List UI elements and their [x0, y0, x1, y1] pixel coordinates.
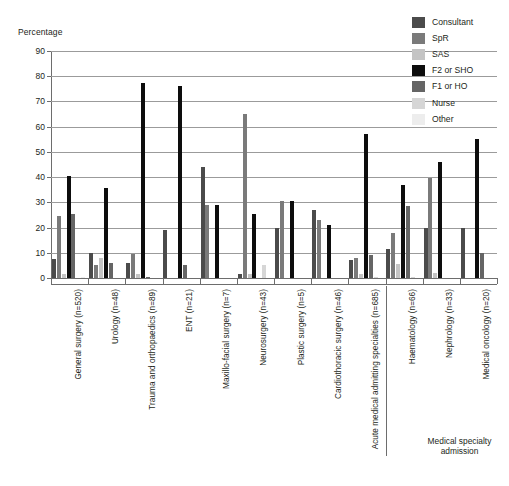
bar	[146, 277, 150, 278]
bar	[238, 274, 242, 278]
bar	[104, 188, 108, 278]
legend-swatch-icon	[412, 65, 425, 76]
bar	[99, 258, 103, 278]
x-tick-mark	[497, 278, 498, 284]
x-axis-category-label: ENT (n=21)	[185, 289, 194, 332]
legend-label: SpR	[432, 34, 449, 43]
bar	[81, 277, 85, 278]
bar	[480, 253, 484, 278]
x-tick-mark	[311, 278, 312, 284]
legend-swatch-icon	[412, 81, 425, 92]
y-tick-label-90: 90	[23, 47, 45, 56]
bar	[252, 214, 256, 278]
legend-item: F1 or HO	[412, 79, 473, 95]
bar-group	[125, 51, 162, 278]
x-axis-category-label: Maxillo-facial surgery (n=7)	[222, 289, 231, 389]
x-tick-mark	[460, 278, 461, 284]
x-axis-line	[51, 284, 497, 285]
y-axis-title: Percentage	[18, 27, 62, 37]
bar	[89, 253, 93, 278]
legend-swatch-icon	[412, 17, 425, 28]
x-tick-mark	[163, 278, 164, 284]
bar	[280, 201, 284, 278]
x-axis-category-label: General surgery (n=520)	[74, 289, 83, 380]
bar-group	[88, 51, 125, 278]
bar	[262, 265, 266, 278]
bar	[433, 273, 437, 278]
y-tick-label-70: 70	[23, 97, 45, 106]
y-tick-label-50: 50	[23, 148, 45, 157]
legend-swatch-icon	[412, 98, 425, 109]
legend-label: Other	[432, 115, 454, 124]
y-tick-label-10: 10	[23, 249, 45, 258]
bar	[369, 255, 373, 278]
bar	[131, 254, 135, 278]
legend-label: F1 or HO	[432, 82, 467, 91]
bar	[248, 274, 252, 278]
bar-group	[163, 51, 200, 278]
bar	[205, 205, 209, 278]
x-tick-mark	[200, 278, 201, 284]
x-axis-category-label: Neurosurgery (n=43)	[259, 289, 268, 366]
bar	[243, 114, 247, 278]
y-tick-label-80: 80	[23, 72, 45, 81]
legend-swatch-icon	[412, 33, 425, 44]
x-axis-category-label: Cardiothoracic surgery (n=46)	[334, 289, 343, 399]
bar	[215, 205, 219, 278]
x-axis-category-label: Urology (n=48)	[111, 289, 120, 344]
legend-item: F2 or SHO	[412, 63, 473, 79]
bar	[411, 277, 415, 278]
x-tick-mark	[51, 278, 52, 284]
legend-item: Other	[412, 111, 473, 127]
bar	[386, 249, 390, 278]
x-axis-category-label: Nephrology (n=33)	[445, 289, 454, 358]
medical-specialty-separator	[386, 286, 387, 456]
legend-label: SAS	[432, 50, 449, 59]
bar	[359, 274, 363, 278]
bar	[396, 264, 400, 278]
x-tick-mark	[423, 278, 424, 284]
bar	[312, 210, 316, 278]
bar	[183, 265, 187, 278]
x-tick-mark	[237, 278, 238, 284]
bar	[67, 176, 71, 278]
bar	[406, 206, 410, 278]
bar	[163, 230, 167, 278]
x-axis-category-label: Trauma and orthopaedics (n=89)	[148, 289, 157, 410]
bar-group	[51, 51, 88, 278]
x-tick-mark	[386, 278, 387, 284]
x-tick-mark	[274, 278, 275, 284]
y-tick-label-20: 20	[23, 224, 45, 233]
x-tick-mark	[348, 278, 349, 284]
y-tick-label-60: 60	[23, 123, 45, 132]
legend-item: SpR	[412, 30, 473, 46]
x-axis-category-label: Plastic surgery (n=5)	[297, 289, 306, 365]
bar	[475, 139, 479, 278]
bar	[438, 162, 442, 278]
chart-figure: Percentage 0102030405060708090 General s…	[0, 0, 509, 486]
bar	[364, 134, 368, 278]
x-axis-category-label: Haematology (n=66)	[408, 289, 417, 364]
legend-label: Consultant	[432, 18, 473, 27]
bar	[141, 83, 145, 278]
legend: ConsultantSpRSASF2 or SHOF1 or HONurseOt…	[412, 14, 473, 127]
legend-swatch-icon	[412, 114, 425, 125]
bar	[62, 274, 66, 278]
legend-swatch-icon	[412, 49, 425, 60]
bar	[428, 178, 432, 278]
bar	[354, 258, 358, 278]
bar	[275, 228, 279, 278]
x-tick-mark	[125, 278, 126, 284]
bar-group	[237, 51, 274, 278]
bar	[424, 228, 428, 278]
annotation-line-1: Medical specialty	[400, 436, 509, 446]
x-axis-category-label: Medical oncology (n=20)	[482, 289, 491, 380]
y-tick-label-40: 40	[23, 173, 45, 182]
bar	[391, 233, 395, 278]
legend-label: F2 or SHO	[432, 66, 473, 75]
bar	[94, 265, 98, 278]
x-tick-mark	[88, 278, 89, 284]
bar	[327, 225, 331, 278]
medical-specialty-annotation: Medical specialtyadmission	[400, 436, 509, 456]
bar	[126, 263, 130, 278]
